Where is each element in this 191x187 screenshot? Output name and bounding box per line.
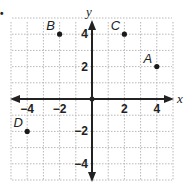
- y-axis-label: y: [84, 4, 92, 19]
- point-label-d: D: [14, 115, 23, 130]
- point-d: [25, 129, 30, 134]
- point-label-a: A: [142, 51, 152, 66]
- coordinate-plane: • x y −4−22442−2−4 ABCD: [0, 0, 191, 187]
- x-tick-label: 4: [153, 102, 160, 116]
- x-tick-label: −2: [53, 102, 67, 116]
- y-axis-up-arrow-icon: [88, 20, 96, 30]
- bullet-marker: •: [0, 8, 4, 19]
- y-tick-label: 4: [81, 27, 88, 41]
- y-axis-down-arrow-icon: [88, 172, 96, 182]
- x-axis-right-arrow-icon: [164, 95, 174, 103]
- x-axis-label: x: [176, 91, 183, 106]
- point-c: [122, 32, 127, 37]
- y-tick-label: −4: [74, 157, 88, 171]
- point-label-c: C: [111, 18, 121, 33]
- point-b: [57, 32, 62, 37]
- x-axis-left-arrow-icon: [10, 95, 20, 103]
- x-tick-label: −4: [20, 102, 34, 116]
- x-tick-label: 2: [121, 102, 128, 116]
- point-a: [154, 64, 159, 69]
- point-label-b: B: [46, 18, 55, 33]
- origin-dot: [90, 97, 95, 102]
- y-tick-label: 2: [81, 60, 88, 74]
- y-tick-label: −2: [74, 124, 88, 138]
